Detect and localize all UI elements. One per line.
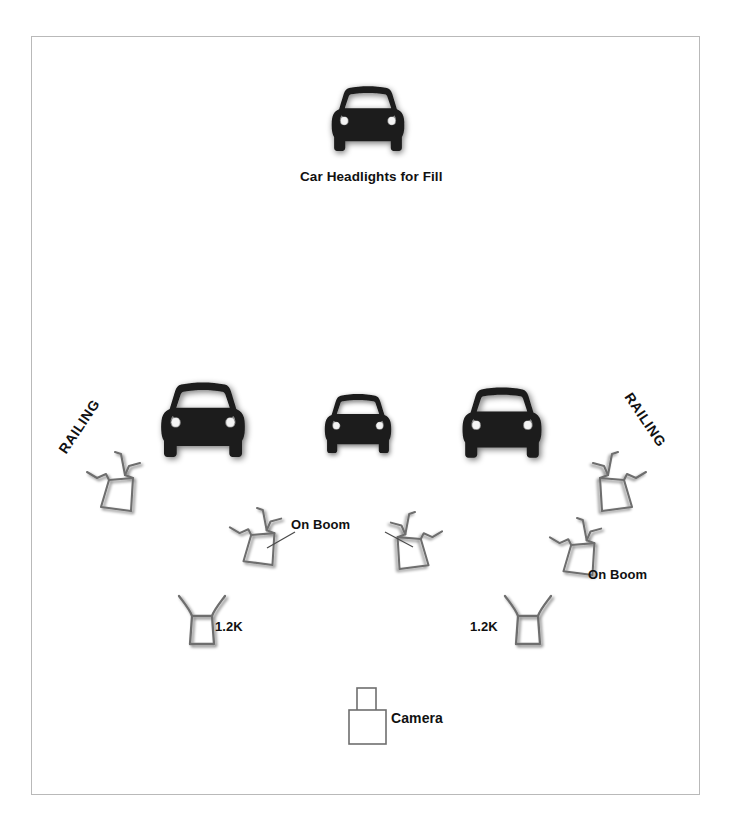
hero-car-right-icon bbox=[452, 372, 552, 472]
camera-icon bbox=[348, 686, 392, 746]
light-1k2-left-label: 1.2K bbox=[215, 620, 243, 633]
light-railing-left-icon bbox=[85, 450, 145, 514]
light-1k2-right-icon bbox=[502, 592, 554, 650]
camera-label: Camera bbox=[391, 711, 443, 725]
hero-car-center-icon bbox=[316, 381, 400, 465]
fill-car-label: Car Headlights for Fill bbox=[300, 170, 443, 184]
light-railing-right-icon bbox=[588, 450, 648, 514]
hero-car-left-icon bbox=[150, 366, 256, 472]
fill-car-icon bbox=[322, 72, 414, 164]
lighting-diagram-canvas: Car Headlights for Fill RAILING RAILING bbox=[0, 0, 735, 820]
on-boom-center-label: On Boom bbox=[291, 518, 350, 531]
light-1k2-right-label: 1.2K bbox=[470, 620, 498, 633]
on-boom-right-label: On Boom bbox=[588, 568, 647, 581]
